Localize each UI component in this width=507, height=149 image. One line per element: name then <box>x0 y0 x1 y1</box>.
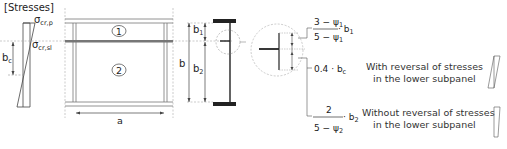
subpanel-1-label: 1 <box>116 27 122 37</box>
stresses-title: [Stresses] <box>4 2 54 13</box>
svg-text:2: 2 <box>326 105 332 115</box>
stiffened-panel-diagram: [Stresses] σcr,p σcr,sl bc <box>0 0 507 149</box>
svg-text:With reversal of stresses: With reversal of stresses <box>366 61 483 72</box>
formula-bc: 0.4 · bc <box>314 64 347 76</box>
svg-text:Without reversal of stresses: Without reversal of stresses <box>362 107 495 118</box>
legend-with-reversal: With reversal of stresses in the lower s… <box>366 56 500 88</box>
svg-text:in the lower subpanel: in the lower subpanel <box>373 73 476 84</box>
svg-text:· b2: · b2 <box>343 112 359 124</box>
bc-label: bc <box>2 52 12 65</box>
svg-text:· b1: · b1 <box>338 24 354 36</box>
subpanel-2-label: 2 <box>116 65 122 76</box>
b2-label: b2 <box>193 63 204 76</box>
svg-text:0.4 · bc: 0.4 · bc <box>314 64 347 76</box>
formula-b2: 2 5 − ψ2 · b2 <box>313 105 359 135</box>
svg-text:5 − ψ2: 5 − ψ2 <box>314 123 343 135</box>
sigma-cr-p-label: σcr,p <box>34 14 53 27</box>
b-label: b <box>179 58 185 69</box>
svg-text:in the lower subpanel: in the lower subpanel <box>373 119 476 130</box>
formula-b1: 3 − ψ1 5 − ψ1 · b1 <box>313 17 354 44</box>
width-a-label: a <box>117 115 123 126</box>
panel-elevation <box>65 8 173 118</box>
legend-without-reversal: Without reversal of stresses in the lowe… <box>362 107 500 137</box>
stiffener-detail <box>251 24 312 116</box>
b1-label: b1 <box>193 24 204 37</box>
